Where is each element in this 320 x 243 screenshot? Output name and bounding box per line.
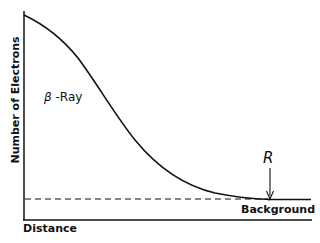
y-axis-label: Number of Electrons [9,54,22,164]
beta-symbol: β [44,90,52,104]
beta-ray-curve [24,15,270,200]
series-label-text: -Ray [52,90,83,104]
range-label: R [263,149,273,167]
background-label: Background [241,203,315,216]
x-axis-label: Distance [23,222,77,235]
series-label: β -Ray [44,90,82,104]
